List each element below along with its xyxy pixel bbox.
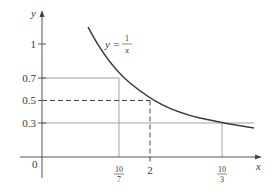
svg-text:7: 7 xyxy=(117,175,121,184)
chart: y x 0 1 0.7 0.5 0.3 10 7 2 10 3 y = 1 x xyxy=(0,0,276,196)
svg-text:y =: y = xyxy=(104,38,120,50)
x-axis-arrow-icon xyxy=(255,155,262,160)
x-tick-label-10-7: 10 7 xyxy=(114,165,124,184)
svg-text:1: 1 xyxy=(125,34,129,43)
function-label: y = 1 x xyxy=(104,34,132,55)
reference-lines xyxy=(42,78,254,157)
y-axis-arrow-icon xyxy=(40,10,45,17)
svg-text:x: x xyxy=(124,45,129,55)
y-tick-label-0.5: 0.5 xyxy=(22,94,36,106)
svg-text:10: 10 xyxy=(115,165,123,174)
svg-text:3: 3 xyxy=(220,175,224,184)
x-tick-label-2: 2 xyxy=(147,164,153,176)
y-tick-label-0.7: 0.7 xyxy=(22,72,36,84)
x-axis-label: x xyxy=(255,160,261,172)
y-tick-label-0.3: 0.3 xyxy=(22,117,36,129)
svg-text:10: 10 xyxy=(218,165,226,174)
origin-label: 0 xyxy=(32,158,38,170)
y-tick-label-1: 1 xyxy=(31,38,37,50)
x-tick-label-10-3: 10 3 xyxy=(217,165,227,184)
dashed-lines xyxy=(42,101,150,163)
y-axis-label: y xyxy=(30,7,36,19)
